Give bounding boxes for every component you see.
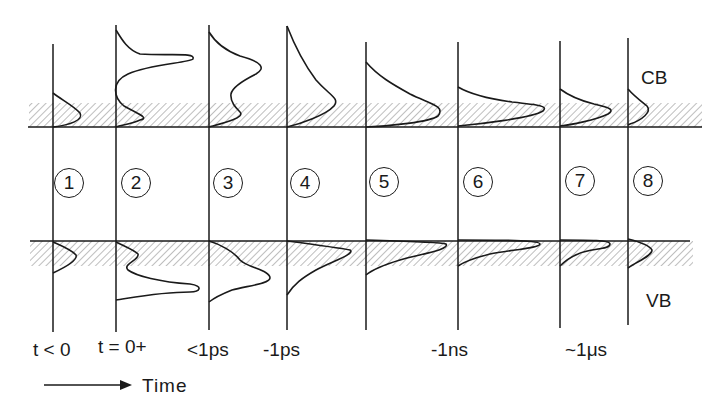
valence-band-hatch (30, 241, 693, 266)
stage-marker-7: 7 (565, 166, 595, 196)
valence-band (30, 241, 693, 266)
time-arrow-icon (44, 380, 132, 390)
stage-marker-5: 5 (369, 167, 399, 197)
time-label-2: t = 0+ (98, 337, 147, 356)
time-axis-label: Time (142, 376, 188, 395)
stage-marker-2: 2 (121, 168, 151, 198)
stage-marker-4: 4 (290, 168, 320, 198)
time-label-7: ~1μs (565, 340, 607, 359)
time-label-4: -1ps (263, 340, 300, 359)
time-label-6: -1ns (431, 340, 468, 359)
stage-marker-8: 8 (633, 166, 663, 196)
stage-marker-6: 6 (463, 167, 493, 197)
stage-marker-3: 3 (213, 168, 243, 198)
time-label-3: <1ps (187, 340, 229, 359)
vb-label: VB (646, 291, 671, 310)
time-label-1: t < 0 (33, 340, 71, 359)
cb-label: CB (641, 68, 667, 87)
stage-marker-1: 1 (54, 168, 84, 198)
